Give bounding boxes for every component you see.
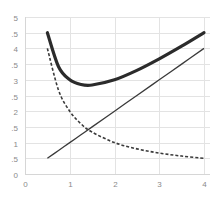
y-axis-tick-labels: 0.51.52.53.54.55 bbox=[11, 14, 18, 180]
y-tick-label: 5 bbox=[14, 14, 19, 23]
y-tick-label: 1 bbox=[14, 140, 19, 149]
x-tick-label: 0 bbox=[23, 180, 28, 189]
y-tick-label: .5 bbox=[11, 61, 18, 70]
y-tick-label: 4 bbox=[14, 45, 19, 54]
x-tick-label: 4 bbox=[202, 180, 207, 189]
gridlines bbox=[25, 17, 210, 175]
y-tick-label: 2 bbox=[14, 108, 19, 117]
y-tick-label: .5 bbox=[11, 93, 18, 102]
y-tick-label: 0 bbox=[14, 171, 19, 180]
x-axis-tick-labels: 01234 bbox=[23, 180, 207, 189]
line-chart: 0.51.52.53.54.55 01234 bbox=[0, 0, 222, 197]
x-tick-label: 1 bbox=[68, 180, 73, 189]
y-tick-label: .5 bbox=[11, 155, 18, 164]
y-tick-label: .5 bbox=[11, 30, 18, 39]
y-tick-label: .5 bbox=[11, 124, 18, 133]
x-tick-label: 3 bbox=[157, 180, 162, 189]
y-tick-label: 3 bbox=[14, 77, 19, 86]
x-tick-label: 2 bbox=[113, 180, 118, 189]
